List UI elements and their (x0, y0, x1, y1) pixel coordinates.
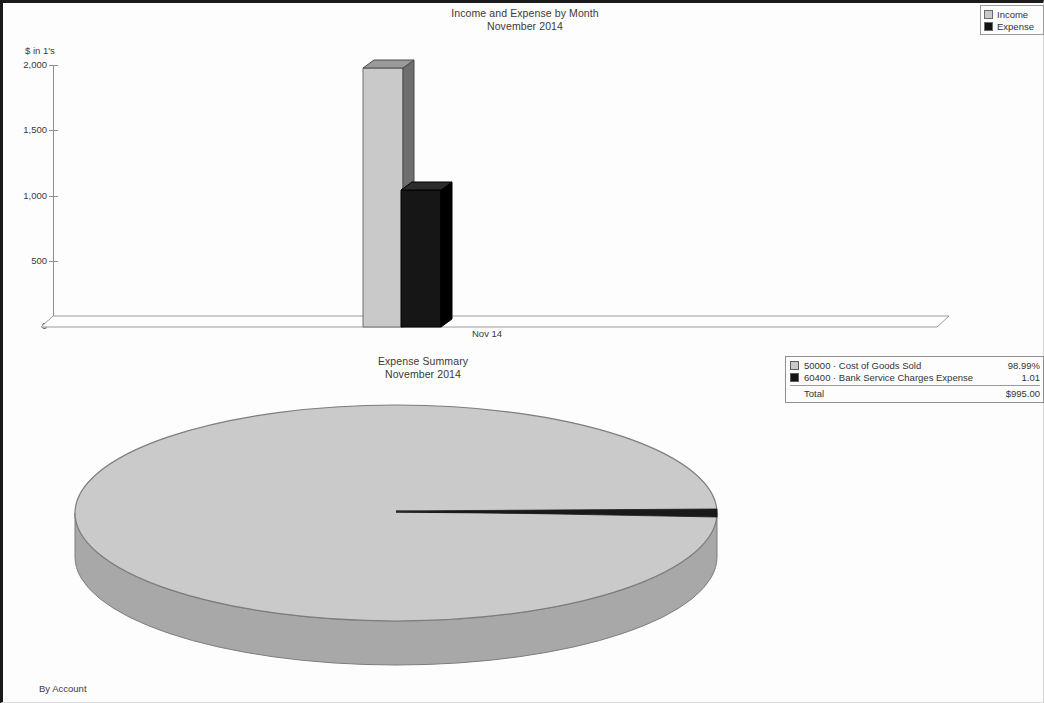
pie-chart-3d[interactable] (69, 401, 729, 673)
x-tick-nov-14: Nov 14 (472, 328, 502, 339)
y-tick-500: 500 (3, 255, 47, 266)
y-tick-1000: 1,000 (3, 190, 47, 201)
pie-chart-subtitle: November 2014 (303, 368, 543, 381)
y-axis-label: $ in 1's (25, 45, 55, 56)
footer-by-account: By Account (39, 683, 87, 694)
bar-expense[interactable] (399, 180, 455, 335)
y-axis-line (53, 65, 54, 327)
pie-chart-title: Expense Summary (303, 355, 543, 368)
pie-legend-row-total: Total $995.00 (790, 385, 1040, 400)
bar-chart-plot: $ in 1's 2,000 1,500 1,000 500 0 (3, 3, 1044, 348)
pie-legend-value-cogs: 98.99% (1008, 360, 1040, 371)
y-tick-1500: 1,500 (3, 124, 47, 135)
y-tick-2000: 2,000 (3, 59, 47, 70)
pie-legend-row-bank-service-charges[interactable]: 60400 · Bank Service Charges Expense 1.0… (790, 372, 1040, 385)
pie-legend-value-total: $995.00 (1006, 388, 1040, 399)
pie-swatch-cogs-icon (790, 361, 799, 370)
pie-swatch-bank-service-charges-icon (790, 373, 799, 382)
pie-chart-legend: 50000 · Cost of Goods Sold 98.99% 60400 … (785, 356, 1044, 403)
pie-legend-row-cogs[interactable]: 50000 · Cost of Goods Sold 98.99% (790, 359, 1040, 372)
pie-legend-label-cogs: 50000 · Cost of Goods Sold (804, 360, 1008, 371)
pie-legend-value-bank-service-charges: 1.01 (1022, 372, 1041, 383)
pie-legend-label-bank-service-charges: 60400 · Bank Service Charges Expense (804, 372, 1022, 383)
pie-legend-label-total: Total (804, 388, 1006, 399)
report-page: Income and Expense by Month November 201… (0, 0, 1044, 703)
